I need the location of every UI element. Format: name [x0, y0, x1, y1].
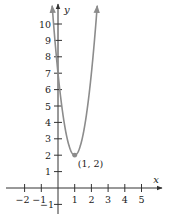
y-tick-label: 1: [45, 166, 51, 177]
y-tick-label: 3: [45, 133, 51, 144]
annotations: (1, 2): [72, 153, 103, 169]
x-tick-label: 3: [105, 194, 111, 205]
axis-ticks: −2−112345−112345678910: [16, 19, 145, 211]
parabola-left-branch: [52, 6, 75, 155]
x-tick-label: 2: [88, 194, 94, 205]
vertex-point: [72, 153, 77, 158]
x-tick-label: −2: [16, 194, 30, 205]
y-tick-label: 10: [39, 19, 51, 30]
y-tick-label: 7: [45, 68, 51, 79]
x-tick-label: 1: [72, 194, 78, 205]
data-series: [52, 6, 97, 155]
x-tick-label: 5: [138, 194, 144, 205]
parabola-right-branch: [75, 6, 98, 155]
y-tick-label: 8: [45, 51, 51, 62]
y-axis-label: y: [63, 4, 70, 15]
y-tick-label: 9: [45, 35, 51, 46]
y-tick-label: 5: [45, 101, 51, 112]
y-tick-label: −1: [40, 199, 54, 210]
y-tick-label: 2: [45, 150, 51, 161]
vertex-label: (1, 2): [78, 158, 104, 169]
parabola-chart: xy −2−112345−112345678910 (1, 2): [0, 0, 169, 216]
y-tick-label: 6: [45, 84, 51, 95]
x-axis-label: x: [153, 174, 159, 185]
axes: xy: [6, 4, 162, 214]
y-tick-label: 4: [45, 117, 51, 128]
x-tick-label: 4: [122, 194, 128, 205]
